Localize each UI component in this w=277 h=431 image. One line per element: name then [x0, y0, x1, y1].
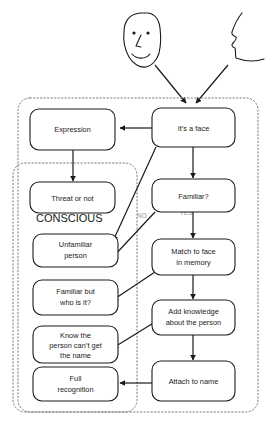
- edge-profile-to-its-a-face: [196, 65, 228, 103]
- node-match-to-face-box[interactable]: [152, 239, 235, 275]
- node-full-recognition-label-line2: recognition: [57, 385, 93, 394]
- node-familiar-label: Familiar?: [178, 192, 208, 201]
- node-unfamiliar-person-label-line1: Unfamiliar: [59, 240, 93, 249]
- node-full-recognition-box[interactable]: [33, 367, 118, 401]
- node-unfamiliar-person[interactable]: Unfamiliar person: [33, 234, 118, 267]
- node-add-knowledge-label-line2: about the person: [166, 318, 221, 327]
- diagram-canvas: CONSCIOUS NO YES Expression It’s a face …: [0, 0, 277, 431]
- edge-match-to-face-to-familiar-but-who: [113, 272, 155, 300]
- group-conscious-label: CONSCIOUS: [36, 212, 103, 224]
- node-familiar-but-who[interactable]: Familiar but who is it?: [33, 280, 118, 315]
- edge-frontal-to-its-a-face: [155, 65, 186, 103]
- edge-its-a-face-to-unfamiliar-person: [113, 147, 156, 241]
- node-threat-or-not-label: Threat or not: [51, 194, 93, 203]
- node-its-a-face-label: It’s a face: [178, 124, 210, 133]
- node-expression-label: Expression: [54, 125, 91, 134]
- node-threat-or-not[interactable]: Threat or not: [30, 182, 115, 213]
- node-expression[interactable]: Expression: [30, 109, 115, 150]
- node-full-recognition-label-line1: Full: [70, 374, 82, 383]
- node-familiar[interactable]: Familiar?: [152, 179, 235, 212]
- frontal-face-sketch: [124, 13, 161, 67]
- node-match-to-face[interactable]: Match to face in memory: [152, 239, 235, 275]
- node-its-a-face[interactable]: It’s a face: [152, 108, 235, 147]
- node-match-to-face-label-line2: in memory: [176, 258, 211, 267]
- node-know-person-no-name[interactable]: Know the person can’t get the name: [33, 326, 118, 363]
- node-unfamiliar-person-label-line2: person: [64, 251, 87, 260]
- node-know-person-no-name-label-line2: person can’t get: [49, 341, 102, 350]
- node-add-knowledge-label-line1: Add knowledge: [168, 307, 219, 316]
- edge-label-no: NO: [137, 212, 147, 219]
- flowchart-diagram: CONSCIOUS NO YES Expression It’s a face …: [0, 0, 277, 431]
- edge-add-knowledge-to-know-person-no-name: [113, 322, 155, 348]
- node-know-person-no-name-label-line3: the name: [60, 351, 91, 360]
- left-eye-dot: [132, 31, 135, 34]
- right-eye-dot: [146, 31, 149, 34]
- node-match-to-face-label-line1: Match to face: [171, 247, 215, 256]
- node-add-knowledge[interactable]: Add knowledge about the person: [152, 300, 235, 335]
- profile-face-sketch: [232, 13, 264, 61]
- node-know-person-no-name-label-line1: Know the: [60, 331, 91, 340]
- edge-familiar-no-to-unfamiliar-person: [113, 212, 155, 257]
- node-attach-to-name-label: Attach to name: [169, 377, 219, 386]
- node-attach-to-name[interactable]: Attach to name: [152, 361, 235, 401]
- node-full-recognition[interactable]: Full recognition: [33, 367, 118, 401]
- node-familiar-but-who-label-line1: Familiar but: [56, 287, 95, 296]
- node-familiar-but-who-label-line2: who is it?: [59, 298, 91, 307]
